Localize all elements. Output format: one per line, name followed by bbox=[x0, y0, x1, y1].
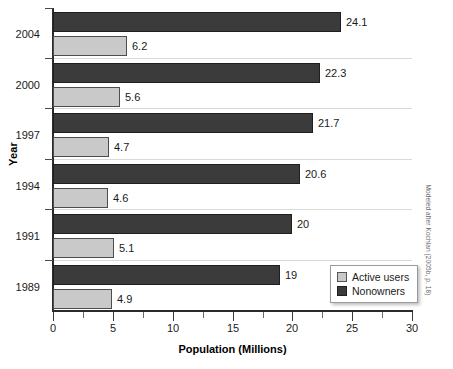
y-tick-label-1994: 1994 bbox=[16, 180, 40, 192]
bar-value-nonowners: 24.1 bbox=[346, 12, 367, 32]
x-tick-label-15: 15 bbox=[227, 322, 239, 334]
x-axis-minor-tick bbox=[203, 312, 204, 318]
y-tick-label-1997: 1997 bbox=[16, 129, 40, 141]
x-axis-minor-tick bbox=[322, 312, 323, 318]
legend-item-nonowners: Nonowners bbox=[337, 284, 411, 298]
bar-value-nonowners: 20 bbox=[297, 214, 309, 234]
x-tick-label-10: 10 bbox=[167, 322, 179, 334]
x-tick-label-30: 30 bbox=[406, 322, 418, 334]
group-separator-gridline bbox=[53, 209, 412, 210]
y-tick-label-2004: 2004 bbox=[16, 28, 40, 40]
bar-active-users bbox=[53, 289, 112, 309]
y-tick-label-2000: 2000 bbox=[16, 79, 40, 91]
x-axis-tick bbox=[113, 312, 114, 321]
bar-active-users bbox=[53, 238, 114, 258]
y-tick-label-1989: 1989 bbox=[16, 281, 40, 293]
y-axis-title: Year bbox=[7, 124, 19, 184]
bar-value-active-users: 6.2 bbox=[132, 36, 147, 56]
x-axis-minor-tick bbox=[263, 312, 264, 318]
legend-swatch-icon-active-users bbox=[337, 272, 347, 282]
legend-swatch-icon-nonowners bbox=[337, 286, 347, 296]
bar-nonowners bbox=[53, 265, 280, 285]
x-axis-tick bbox=[233, 312, 234, 321]
bar-value-nonowners: 19 bbox=[285, 265, 297, 285]
legend-item-active-users: Active users bbox=[337, 270, 411, 284]
group-separator-gridline bbox=[53, 260, 412, 261]
x-axis-title: Population (Millions) bbox=[53, 343, 412, 355]
bar-active-users bbox=[53, 188, 108, 208]
bar-value-nonowners: 20.6 bbox=[305, 164, 326, 184]
group-separator-gridline bbox=[53, 159, 412, 160]
x-axis-tick bbox=[173, 312, 174, 321]
y-tick-label-1991: 1991 bbox=[16, 230, 40, 242]
bar-value-nonowners: 22.3 bbox=[325, 63, 346, 83]
bar-nonowners bbox=[53, 164, 300, 184]
group-separator-gridline bbox=[53, 108, 412, 109]
bar-active-users bbox=[53, 87, 120, 107]
bar-value-active-users: 4.7 bbox=[114, 137, 129, 157]
x-axis-tick bbox=[412, 312, 413, 321]
y-axis-tick-labels: 2004 2000 1997 1994 1991 1989 bbox=[0, 0, 48, 369]
x-axis-tick bbox=[352, 312, 353, 321]
bar-value-active-users: 4.6 bbox=[113, 188, 128, 208]
legend-label-nonowners: Nonowners bbox=[352, 285, 405, 297]
x-tick-label-20: 20 bbox=[286, 322, 298, 334]
bar-nonowners bbox=[53, 113, 313, 133]
bar-value-nonowners: 21.7 bbox=[318, 113, 339, 133]
x-tick-label-5: 5 bbox=[110, 322, 116, 334]
x-axis-minor-tick bbox=[143, 312, 144, 318]
bar-nonowners bbox=[53, 12, 341, 32]
source-credit: Modeled after Kochlan (2005b, p. 18) bbox=[425, 185, 432, 309]
chart-legend: Active users Nonowners bbox=[330, 265, 418, 303]
x-axis-tick bbox=[53, 312, 54, 321]
x-tick-label-0: 0 bbox=[50, 322, 56, 334]
group-separator-gridline bbox=[53, 58, 412, 59]
bar-active-users bbox=[53, 137, 109, 157]
bar-value-active-users: 4.9 bbox=[117, 289, 132, 309]
x-axis-tick bbox=[292, 312, 293, 321]
bar-chart-figure: 24.1 6.2 22.3 5.6 21.7 4.7 20.6 4.6 20 5… bbox=[0, 0, 453, 369]
x-tick-label-25: 25 bbox=[346, 322, 358, 334]
x-axis-minor-tick bbox=[83, 312, 84, 318]
x-axis-minor-tick bbox=[382, 312, 383, 318]
bar-nonowners bbox=[53, 214, 292, 234]
legend-label-active-users: Active users bbox=[352, 271, 409, 283]
bar-value-active-users: 5.6 bbox=[125, 87, 140, 107]
bar-value-active-users: 5.1 bbox=[119, 238, 134, 258]
bar-active-users bbox=[53, 36, 127, 56]
bar-nonowners bbox=[53, 63, 320, 83]
